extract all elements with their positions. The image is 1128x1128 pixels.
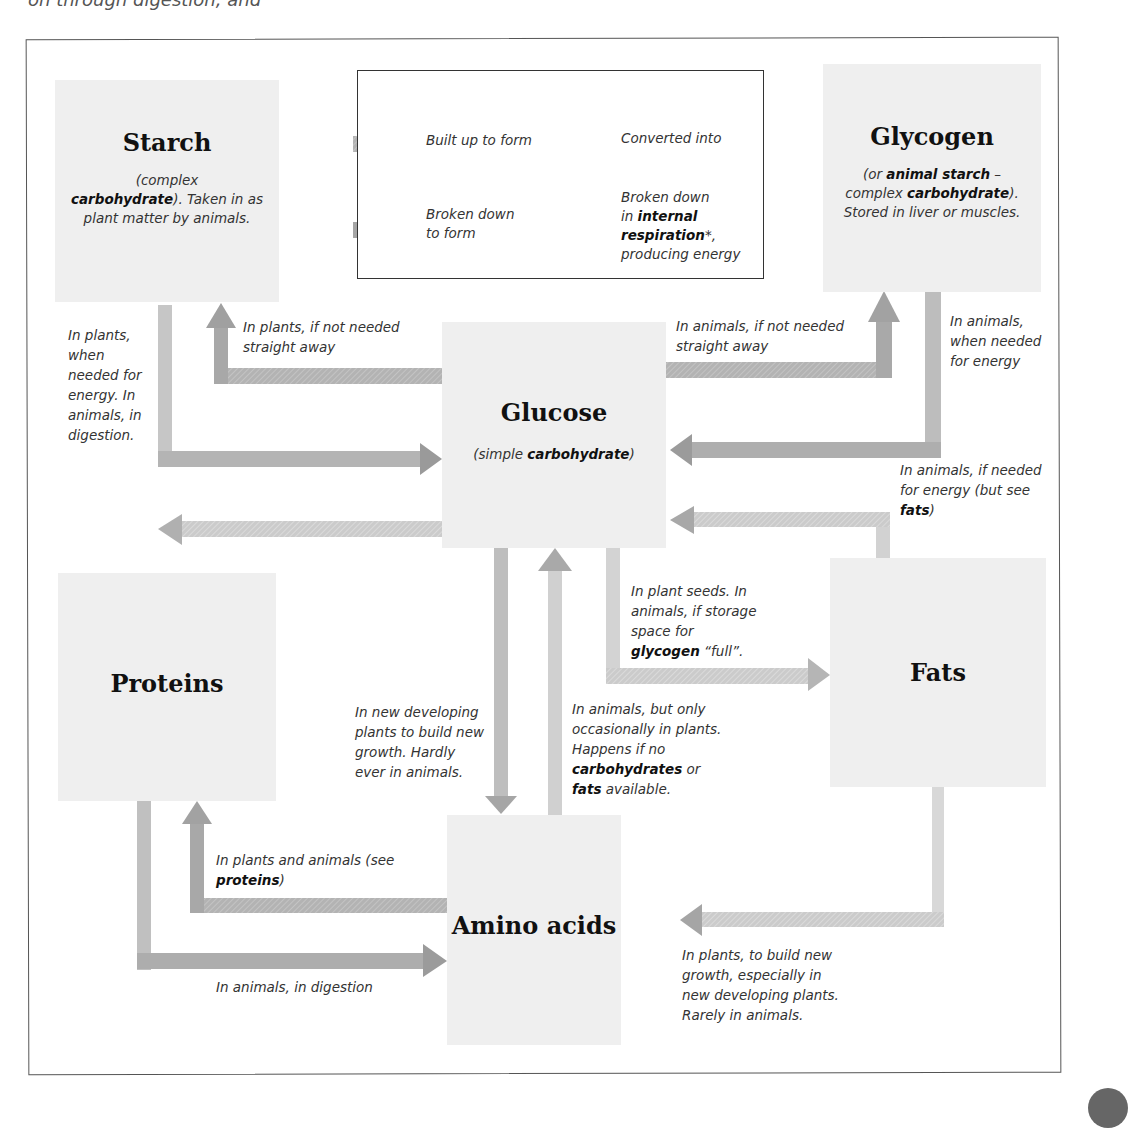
label-glucose-to-glycogen: In animals, if not needed straight away — [676, 316, 856, 356]
arrow-glucose-to-amino — [485, 548, 517, 814]
node-desc-glucose: (simple carbohydrate) — [442, 445, 666, 464]
legend-label-converted: Converted into — [621, 129, 721, 148]
node-proteins: Proteins — [58, 573, 276, 801]
label-glycogen-to-glucose: In animals, when needed for energy — [950, 311, 1045, 371]
legend-label-built-up: Built up to form — [426, 131, 532, 150]
label-glucose-to-amino: In new developing plants to build new gr… — [355, 702, 485, 782]
legend-label-respiration: Broken down in internal respiration*, pr… — [621, 188, 763, 264]
node-amino-acids: Amino acids — [447, 815, 621, 1045]
node-title-proteins: Proteins — [58, 669, 276, 698]
arrow-fats-to-amino — [680, 787, 944, 936]
legend-box: Built up to form Converted into Broken d… — [357, 70, 764, 279]
label-starch-to-glucose: In plants, when needed for energy. In an… — [68, 325, 148, 445]
node-glycogen: Glycogen (or animal starch – complex car… — [823, 64, 1041, 292]
arrow-fats-to-glucose — [670, 506, 890, 560]
page-corner-decoration — [1088, 1088, 1128, 1128]
legend-label-broken-down: Broken down to form — [426, 205, 514, 243]
node-title-fats: Fats — [830, 658, 1046, 687]
label-glucose-to-starch: In plants, if not needed straight away — [243, 317, 413, 357]
node-glucose: Glucose (simple carbohydrate) — [442, 322, 666, 548]
node-fats: Fats — [830, 558, 1046, 787]
legend-item-respiration: Broken down in internal respiration*, pr… — [611, 188, 763, 264]
node-desc-glycogen: (or animal starch – complex carbohydrate… — [835, 165, 1029, 222]
node-title-glucose: Glucose — [442, 398, 666, 427]
arrow-amino-to-glucose — [538, 548, 572, 815]
legend-item-built-up: Built up to form — [416, 131, 532, 150]
label-glucose-to-fats: In plant seeds. In animals, if storage s… — [631, 581, 766, 661]
legend-item-broken-down: Broken down to form — [416, 205, 514, 243]
node-desc-starch: (complex carbohydrate). Taken in as plan… — [69, 171, 265, 228]
node-title-amino-acids: Amino acids — [447, 911, 621, 940]
label-proteins-to-amino: In animals, in digestion — [216, 977, 436, 997]
legend-item-converted: Converted into — [611, 129, 721, 148]
label-amino-to-glucose: In animals, but only occasionally in pla… — [572, 699, 722, 799]
node-title-starch: Starch — [69, 128, 265, 157]
label-fats-to-amino: In plants, to build new growth, especial… — [682, 945, 842, 1025]
arrow-glucose-respiration — [158, 514, 442, 545]
label-amino-to-proteins: In plants and animals (see proteins) — [216, 850, 396, 890]
label-fats-to-glucose: In animals, if needed for energy (but se… — [900, 460, 1050, 520]
node-title-glycogen: Glycogen — [835, 122, 1029, 151]
node-starch: Starch (complex carbohydrate). Taken in … — [55, 80, 279, 302]
